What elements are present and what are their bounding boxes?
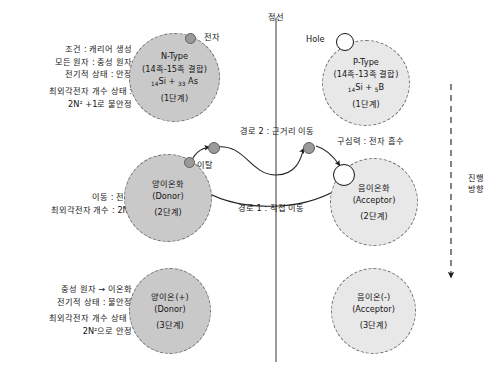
stage3-text-line-0: 중성 원자 → 이온화	[10, 283, 132, 296]
stage3-text-line-1: 전기적 상태 : 불안정	[10, 296, 132, 309]
progress-direction-label: 진행 방향	[459, 173, 493, 194]
path2-label: 경로 2 : 근거리 이동	[240, 126, 314, 137]
positive-ion-subtitle: (Donor)	[154, 303, 185, 315]
acceptor-ionized-step: (2단계)	[360, 210, 388, 222]
free-electron-right-icon	[303, 142, 315, 154]
hole-at-acceptor-icon	[333, 164, 355, 186]
negative-ion-subtitle: (Acceptor)	[352, 303, 395, 315]
hole-label: Hole	[306, 34, 324, 45]
n-type-formula-post: As	[188, 76, 198, 86]
p-type-step: (1단계)	[352, 98, 380, 110]
stage1-text-line-0: 조건 : 캐리어 생성	[10, 43, 132, 56]
n-type-formula-mid: Si +	[158, 76, 175, 86]
p-type-formula: 14Si + 5B	[348, 81, 384, 94]
diagram-canvas: 정선 진행 방향 조건 : 캐리어 생성 모든 원자 : 중성 원자 전기적 상…	[0, 0, 496, 377]
p-type-title: P-Type	[353, 56, 379, 68]
donor-ionized-subtitle: (Donor)	[152, 190, 183, 202]
n-type-combination: (14족-15족 결합)	[142, 63, 207, 75]
p-type-formula-post: B	[379, 82, 385, 92]
stage1-left-text: 조건 : 캐리어 생성 모든 원자 : 중성 원자 전기적 상태 : 안정 최외…	[10, 43, 132, 111]
positive-ion-title: 양이온(+)	[151, 291, 188, 303]
attraction-label: 구심력 : 전자 흡수	[337, 136, 404, 147]
donor-ionized-title: 양이온화	[152, 178, 184, 190]
path2-travel-arrow	[216, 147, 304, 175]
acceptor-ionized-title: 음이온화	[358, 182, 390, 194]
stage1-text-line-1: 모든 원자 : 중성 원자	[10, 56, 132, 69]
acceptor-ionized-subtitle: (Acceptor)	[353, 194, 396, 206]
stage1-text-line-5: 2N² +1로 불안정	[10, 98, 132, 111]
hole-carrier-icon	[336, 33, 354, 51]
stage1-text-line-4: 최외각전자 개수 상태 :	[10, 85, 132, 98]
electron-on-donor-surface-icon	[184, 157, 195, 168]
negative-ion-title: 음이온(-)	[357, 291, 390, 303]
n-type-title: N-Type	[161, 50, 188, 62]
stage2-text-line-1: 최외각전자 개수 : 2N²	[10, 204, 132, 217]
progress-direction-line1: 진행	[468, 173, 484, 183]
stage2-text-line-0: 이동 : 전자	[10, 191, 132, 204]
node-negative-ion: 음이온(-) (Acceptor) (3단계)	[331, 268, 416, 354]
stage1-text-line-2: 전기적 상태 : 안정	[10, 68, 132, 81]
node-p-type: P-Type (14족-13족 결합) 14Si + 5B (1단계)	[322, 40, 410, 126]
n-type-step: (1단계)	[161, 92, 189, 104]
path1-label: 경로 1 : 직접 이동	[238, 203, 304, 214]
free-electron-left-icon	[208, 142, 220, 154]
p-type-combination: (14족-13족 결합)	[334, 68, 399, 80]
progress-direction-line2: 방향	[468, 184, 484, 194]
node-positive-ion: 양이온(+) (Donor) (3단계)	[129, 268, 211, 354]
positive-ion-step: (3단계)	[156, 319, 184, 331]
n-type-formula-sub2: 33	[178, 81, 185, 87]
attraction-arrow	[316, 146, 340, 166]
p-type-formula-mid: Si +	[355, 82, 372, 92]
center-line-label: 정선	[253, 12, 299, 23]
stage3-text-line-4: 2N²으로 안정	[10, 325, 132, 338]
escape-label: 이탈	[197, 160, 213, 171]
n-type-formula: 14Si + 33 As	[151, 75, 198, 88]
electron-carrier-icon	[185, 33, 196, 44]
donor-ionized-step: (2단계)	[154, 206, 182, 218]
stage3-left-text: 중성 원자 → 이온화 전기적 상태 : 불안정 최외각전자 개수 상태 : 2…	[10, 283, 132, 338]
node-n-type: N-Type (14족-15족 결합) 14Si + 33 As (1단계)	[129, 33, 220, 122]
electron-label: 전자	[204, 32, 220, 43]
stage3-text-line-3: 최외각전자 개수 상태 :	[10, 312, 132, 325]
negative-ion-step: (3단계)	[360, 319, 388, 331]
stage2-left-text: 이동 : 전자 최외각전자 개수 : 2N²	[10, 191, 132, 216]
